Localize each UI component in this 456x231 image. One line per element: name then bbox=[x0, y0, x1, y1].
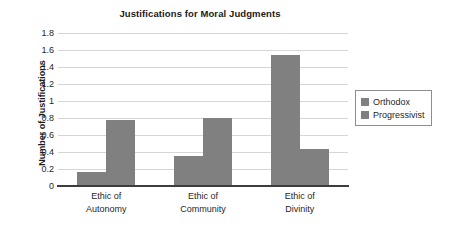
legend: OrthodoxProgressivist bbox=[355, 90, 432, 126]
x-axis-category-label-line: Autonomy bbox=[58, 203, 155, 216]
y-axis-tick-label: 0.6 bbox=[8, 130, 54, 140]
y-axis-tick-label: 1.2 bbox=[8, 79, 54, 89]
legend-item[interactable]: Orthodox bbox=[361, 95, 425, 108]
y-axis-tick-label: 1.4 bbox=[8, 62, 54, 72]
gridline bbox=[58, 50, 348, 51]
gridline bbox=[58, 101, 348, 102]
plot-area bbox=[58, 33, 348, 186]
chart-title: Justifications for Moral Judgments bbox=[0, 8, 400, 19]
legend-item[interactable]: Progressivist bbox=[361, 108, 425, 121]
y-axis-tick-label: 1 bbox=[8, 96, 54, 106]
y-axis-tick-label: 0.2 bbox=[8, 164, 54, 174]
x-axis-category-label-line: Ethic of bbox=[58, 190, 155, 203]
y-axis-tick-label: 1.8 bbox=[8, 28, 54, 38]
x-axis-category-label-line: Ethic of bbox=[251, 190, 348, 203]
legend-item-label: Progressivist bbox=[373, 110, 425, 120]
bar-chart: Justifications for Moral Judgments Numbe… bbox=[0, 0, 456, 231]
x-axis-category-label: Ethic ofDivinity bbox=[251, 190, 348, 215]
x-axis-category-label: Ethic ofCommunity bbox=[155, 190, 252, 215]
y-axis-tick-label: 0 bbox=[8, 181, 54, 191]
bar bbox=[271, 55, 300, 186]
y-axis-tick-labels: 1.81.61.41.210.80.60.40.20 bbox=[4, 33, 54, 186]
x-axis-line bbox=[57, 185, 349, 187]
legend-swatch-icon bbox=[361, 98, 369, 106]
y-axis-tick-label: 0.4 bbox=[8, 147, 54, 157]
y-axis-tick-label: 1.6 bbox=[8, 45, 54, 55]
gridline bbox=[58, 84, 348, 85]
gridline bbox=[58, 67, 348, 68]
bar bbox=[300, 149, 329, 186]
x-axis-category-label-line: Divinity bbox=[251, 203, 348, 216]
x-axis-category-label: Ethic ofAutonomy bbox=[58, 190, 155, 215]
bar bbox=[106, 120, 135, 186]
bar bbox=[174, 156, 203, 186]
bar bbox=[203, 118, 232, 186]
y-axis-tick-label: 0.8 bbox=[8, 113, 54, 123]
legend-item-label: Orthodox bbox=[373, 97, 410, 107]
x-axis-category-label-line: Community bbox=[155, 203, 252, 216]
gridline bbox=[58, 33, 348, 34]
x-axis-category-labels: Ethic ofAutonomyEthic ofCommunityEthic o… bbox=[58, 190, 348, 224]
legend-swatch-icon bbox=[361, 111, 369, 119]
x-axis-category-label-line: Ethic of bbox=[155, 190, 252, 203]
bar bbox=[77, 172, 106, 186]
